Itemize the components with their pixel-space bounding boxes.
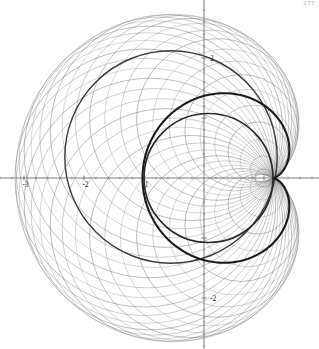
x-tick-label: -1: [142, 180, 148, 189]
family-circle: [62, 14, 286, 238]
family-circle: [62, 118, 286, 342]
figure-root: 277 -3-2-12-2: [0, 0, 319, 349]
x-tick-label: -3: [22, 180, 28, 189]
tick-labels-layer: -3-2-12-2: [22, 54, 216, 303]
x-tick-label: -2: [82, 180, 88, 189]
y-tick-label: 2: [210, 54, 214, 63]
plot-canvas: -3-2-12-2: [0, 0, 319, 349]
y-tick-label: -2: [210, 294, 216, 303]
